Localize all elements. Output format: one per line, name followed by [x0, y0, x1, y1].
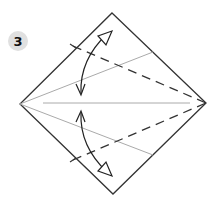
lower-crease: [20, 104, 153, 155]
lower-fold-unfold-arrow-icon: [76, 111, 112, 176]
upper-valley-fold-dashed: [73, 46, 206, 103]
upper-edge-tick: [70, 44, 76, 48]
origami-diagram: [0, 0, 219, 207]
upper-fold-unfold-arrow-icon: [76, 31, 112, 95]
upper-crease: [20, 52, 153, 104]
lower-edge-tick: [70, 158, 76, 162]
